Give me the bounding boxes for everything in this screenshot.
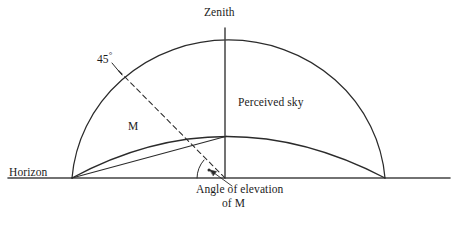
perceived-sky-label: Perceived sky [238, 96, 304, 109]
angle-45-label: 45° [97, 53, 112, 66]
angle-of-elevation-label-line2: of M [222, 197, 245, 210]
point-m-label: M [128, 120, 138, 133]
diagram-canvas: Zenith 45° Perceived sky M Horizon Angle… [0, 0, 453, 225]
zenith-label: Zenith [204, 6, 235, 19]
degree-symbol: ° [109, 50, 113, 60]
forty-five-degree-tick [112, 63, 122, 75]
ray-to-m-line [72, 133, 226, 181]
angle-caption-arrowhead [210, 170, 217, 176]
perceived-sky-arc [72, 137, 385, 179]
horizon-label: Horizon [9, 166, 47, 179]
angle-marker-dot [208, 169, 211, 172]
angle-of-elevation-arc [197, 160, 204, 178]
angle-of-elevation-label-line1: Angle of elevation [196, 183, 283, 196]
angle-45-value: 45 [97, 53, 109, 65]
